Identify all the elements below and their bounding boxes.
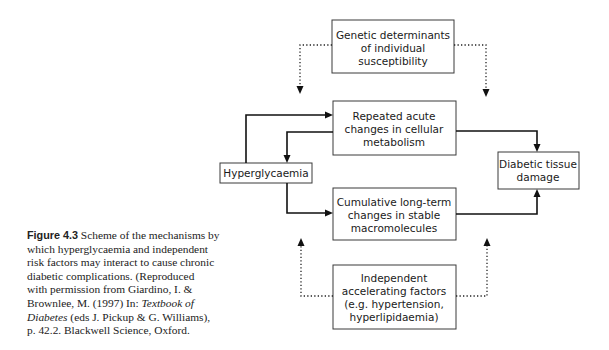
node-genetic-line-3: susceptibility bbox=[358, 55, 427, 67]
edge-independent-to-damage bbox=[456, 238, 491, 296]
edge-cumulative-to-damage bbox=[456, 189, 541, 214]
arrowhead-icon bbox=[534, 144, 541, 152]
caption-text: (eds J. Pickup & G. Williams), bbox=[68, 311, 211, 323]
node-independent-line-3: (e.g. hypertension, bbox=[344, 298, 444, 310]
node-hyperglycaemia: Hyperglycaemia bbox=[220, 163, 312, 183]
figure-label: Figure 4.3 bbox=[27, 229, 78, 241]
arrowhead-icon bbox=[325, 210, 333, 217]
figure-caption: Figure 4.3 Scheme of the mechanisms by w… bbox=[27, 229, 212, 338]
caption-line-4: diabetic complications. (Reproduced bbox=[27, 270, 212, 284]
node-cumulative-line-2: changes in stable bbox=[348, 209, 440, 221]
node-cumulative-line-1: Cumulative long-term bbox=[337, 196, 452, 208]
node-cumulative: Cumulative long-term changes in stable m… bbox=[333, 188, 456, 240]
node-genetic-line-1: Genetic determinants bbox=[336, 29, 450, 41]
caption-line-1: Figure 4.3 Scheme of the mechanisms by bbox=[27, 229, 212, 243]
caption-line-5: with permission from Giardino, I. & bbox=[27, 283, 212, 297]
node-acute: Repeated acute changes in cellular metab… bbox=[333, 101, 456, 155]
node-acute-line-3: metabolism bbox=[363, 136, 425, 148]
node-independent-line-1: Independent bbox=[361, 272, 428, 284]
node-damage-line-2: damage bbox=[517, 171, 560, 183]
edge-acute-to-damage bbox=[456, 131, 541, 152]
node-independent-line-4: hyperlipidaemia) bbox=[350, 311, 439, 323]
node-hyperglycaemia-label: Hyperglycaemia bbox=[223, 167, 308, 179]
arrowhead-icon bbox=[484, 238, 491, 246]
edge-hyperglycaemia-to-cumulative bbox=[287, 183, 333, 217]
caption-line-7: Diabetes (eds J. Pickup & G. Williams), bbox=[27, 311, 212, 325]
caption-text: Scheme of the mechanisms by bbox=[78, 229, 219, 241]
arrowhead-icon bbox=[483, 89, 490, 97]
node-independent-line-2: accelerating factors bbox=[342, 285, 447, 297]
node-acute-line-1: Repeated acute bbox=[353, 110, 436, 122]
caption-text: Brownlee, M. (1997) In: bbox=[27, 297, 142, 309]
edge-acute-to-hyperglycaemia bbox=[284, 132, 334, 163]
node-acute-line-2: changes in cellular bbox=[345, 123, 444, 135]
arrowhead-icon bbox=[297, 86, 304, 94]
node-genetic: Genetic determinants of individual susce… bbox=[332, 20, 454, 73]
arrowhead-icon bbox=[534, 189, 541, 197]
caption-line-8: p. 42.2. Blackwell Science, Oxford. bbox=[27, 324, 212, 338]
arrowhead-icon bbox=[284, 155, 291, 163]
caption-line-3: risk factors may interact to cause chron… bbox=[27, 256, 212, 270]
caption-line-2: which hyperglycaemia and independent bbox=[27, 243, 212, 257]
node-genetic-line-2: of individual bbox=[361, 42, 425, 54]
caption-line-6: Brownlee, M. (1997) In: Textbook of bbox=[27, 297, 212, 311]
caption-book-title: Diabetes bbox=[27, 311, 68, 323]
node-damage-line-1: Diabetic tissue bbox=[499, 158, 577, 170]
arrowhead-icon bbox=[325, 112, 333, 119]
node-independent: Independent accelerating factors (e.g. h… bbox=[333, 265, 456, 329]
edge-genetic-to-damage bbox=[454, 45, 490, 97]
caption-book-title: Textbook of bbox=[142, 297, 194, 309]
node-damage: Diabetic tissue damage bbox=[498, 152, 579, 189]
edge-genetic-to-acute bbox=[297, 45, 333, 94]
node-cumulative-line-3: macromolecules bbox=[351, 222, 437, 234]
edge-independent-to-cumulative bbox=[298, 238, 334, 296]
arrowhead-icon bbox=[298, 238, 305, 246]
